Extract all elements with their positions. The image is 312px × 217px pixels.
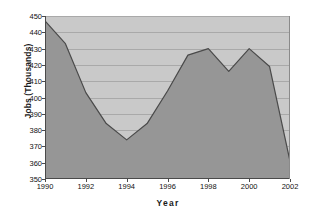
y-tick-label: 390 (0, 109, 42, 118)
x-tick-mark (45, 179, 46, 182)
y-tick-label: 430 (0, 44, 42, 53)
x-tick-label: 2002 (270, 182, 310, 191)
y-tick-label: 410 (0, 77, 42, 86)
y-tick-label: 450 (0, 12, 42, 21)
x-tick-label: 1992 (66, 182, 106, 191)
area-series-jobs (45, 16, 290, 179)
x-tick-mark (208, 179, 209, 182)
plot-area (45, 16, 290, 179)
x-tick-mark (290, 179, 291, 182)
x-tick-label: 1996 (148, 182, 188, 191)
x-tick-label: 1990 (25, 182, 65, 191)
x-tick-label: 2000 (229, 182, 269, 191)
x-tick-mark (249, 179, 250, 182)
y-tick-label: 360 (0, 158, 42, 167)
x-axis-title: Year (45, 198, 291, 208)
y-tick-label: 420 (0, 60, 42, 69)
y-tick-label: 440 (0, 28, 42, 37)
x-tick-label: 1994 (107, 182, 147, 191)
chart-container: Jobs (Thousands) 35036037038039040041042… (0, 0, 312, 217)
y-tick-label: 400 (0, 93, 42, 102)
y-tick-label: 380 (0, 126, 42, 135)
x-tick-mark (86, 179, 87, 182)
x-tick-mark (168, 179, 169, 182)
x-tick-label: 1998 (188, 182, 228, 191)
y-tick-label: 370 (0, 142, 42, 151)
x-tick-mark (127, 179, 128, 182)
